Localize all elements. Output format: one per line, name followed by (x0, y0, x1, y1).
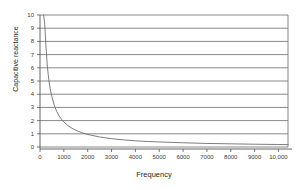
data-series-curve (44, 15, 288, 145)
y-tick-label: 2 (22, 118, 34, 124)
y-axis-title-wrapper: Capacitive reactance (10, 9, 22, 109)
y-tick-label: 3 (22, 104, 34, 110)
y-tick-label: 10 (22, 12, 34, 18)
x-axis-title: Frequency (0, 170, 308, 179)
y-tick-label: 0 (22, 144, 34, 150)
y-tick-label: 4 (22, 91, 34, 97)
x-tick-label: 10,000 (263, 154, 293, 160)
y-tick-label: 5 (22, 78, 34, 84)
y-tick-label: 6 (22, 65, 34, 71)
chart-figure: 012345678910 010002000300040005000600070… (0, 0, 308, 190)
y-tick-label: 1 (22, 131, 34, 137)
y-tick-label: 7 (22, 52, 34, 58)
gridlines-group (40, 15, 288, 147)
y-tick-label: 9 (22, 25, 34, 31)
chart-plot-area (0, 0, 308, 190)
y-axis-title: Capacitive reactance (10, 9, 22, 109)
y-tick-label: 8 (22, 38, 34, 44)
